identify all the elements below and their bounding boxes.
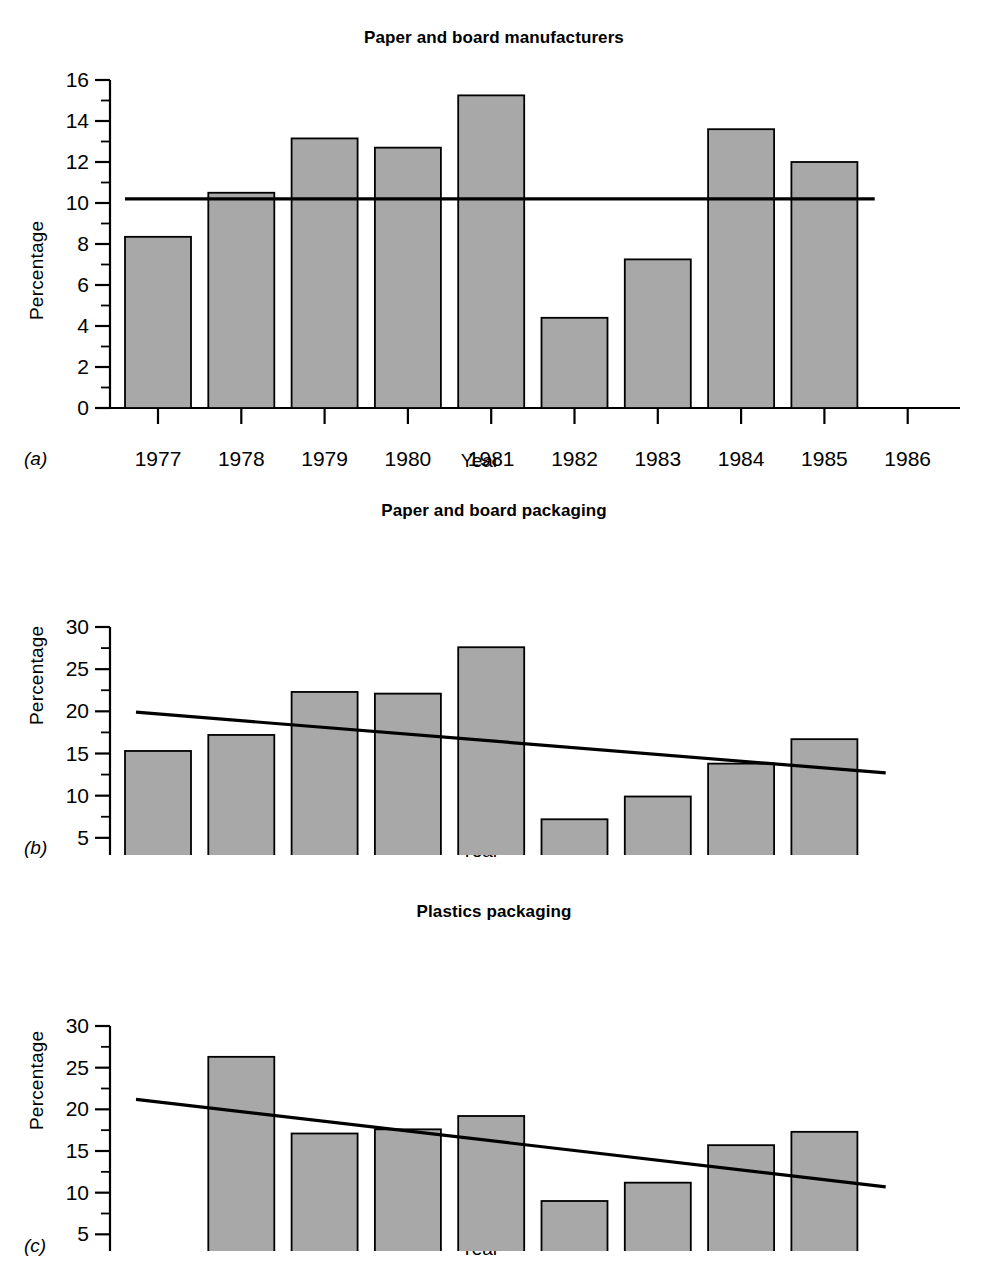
bar [208, 735, 274, 855]
y-axis-tick-label: 15 [66, 1139, 89, 1162]
y-axis-tick-label: 20 [66, 1097, 89, 1120]
y-axis-tick-label: 8 [77, 232, 89, 255]
bar [125, 751, 191, 855]
x-axis-tick-label: 1983 [634, 447, 681, 470]
x-axis-tick-label: 1986 [884, 447, 931, 470]
y-axis-tick-label: 5 [77, 826, 89, 849]
bar [125, 237, 191, 408]
plot-area-a: 0246810121416197719781979198019811982198… [0, 30, 988, 470]
y-axis-tick-label: 6 [77, 273, 89, 296]
bar [625, 797, 691, 855]
chart-panel-b: Paper and board packaging Percentage Yea… [0, 485, 988, 890]
plot-area-c: 0510152025301977197819791980198119821983… [0, 906, 988, 1251]
y-axis-tick-label: 5 [77, 1222, 89, 1245]
x-axis-tick-label: 1985 [801, 447, 848, 470]
bar [292, 692, 358, 855]
chart-panel-c: Plastics packaging Percentage Year (c) 0… [0, 890, 988, 1277]
bar [292, 138, 358, 408]
bar [625, 259, 691, 408]
y-axis-tick-label: 0 [77, 396, 89, 419]
bar [791, 1132, 857, 1251]
y-axis-tick-label: 10 [66, 784, 89, 807]
y-axis-tick-label: 4 [77, 314, 89, 337]
plot-area-b: 0510152025301977197819791980198119821983… [0, 505, 988, 855]
chart-panel-a: Paper and board manufacturers Percentage… [0, 0, 988, 485]
bar [375, 694, 441, 855]
x-axis-tick-label: 1977 [135, 447, 182, 470]
y-axis-tick-label: 30 [66, 1014, 89, 1037]
y-axis-tick-label: 20 [66, 699, 89, 722]
x-axis-tick-label: 1981 [468, 447, 515, 470]
y-axis-tick-label: 14 [66, 109, 90, 132]
bar [375, 1129, 441, 1251]
bar [292, 1134, 358, 1252]
x-axis-tick-label: 1984 [718, 447, 765, 470]
bar [458, 95, 524, 408]
bar [542, 819, 608, 855]
y-axis-tick-label: 2 [77, 355, 89, 378]
y-axis-tick-label: 30 [66, 615, 89, 638]
x-axis-tick-label: 1982 [551, 447, 598, 470]
bar [542, 318, 608, 408]
bar [208, 1057, 274, 1251]
bar [708, 1145, 774, 1251]
y-axis-tick-label: 10 [66, 1181, 89, 1204]
y-axis-tick-label: 15 [66, 742, 89, 765]
bar [791, 739, 857, 855]
bar [458, 1116, 524, 1251]
y-axis-tick-label: 10 [66, 191, 89, 214]
bar [375, 148, 441, 408]
x-axis-tick-label: 1979 [301, 447, 348, 470]
bar [458, 647, 524, 855]
bar [208, 193, 274, 408]
bar [542, 1201, 608, 1251]
y-axis-tick-label: 25 [66, 1056, 89, 1079]
x-axis-tick-label: 1980 [385, 447, 432, 470]
x-axis-tick-label: 1978 [218, 447, 265, 470]
y-axis-tick-label: 16 [66, 68, 89, 91]
bar [708, 129, 774, 408]
y-axis-tick-label: 25 [66, 657, 89, 680]
y-axis-tick-label: 12 [66, 150, 89, 173]
bar [625, 1183, 691, 1251]
bar [708, 764, 774, 855]
